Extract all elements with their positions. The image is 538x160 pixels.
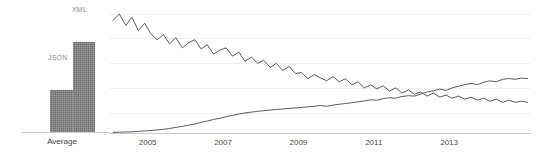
x-tick-label-2011: 2011	[365, 138, 382, 147]
x-tick-label-2013: 2013	[440, 138, 458, 147]
x-tick-label-2005: 2005	[139, 138, 157, 147]
bar-xml	[73, 42, 95, 132]
bar-chart-baseline	[22, 132, 110, 133]
series-line-xml	[113, 14, 528, 102]
trend-line-chart: 20052007200920112013	[110, 0, 538, 160]
bar-label-json: JSON	[48, 54, 67, 61]
average-bar-chart: JSON XML Average	[0, 0, 112, 160]
series-line-json	[113, 78, 528, 132]
bar-json	[50, 90, 73, 132]
line-chart-plot	[110, 0, 538, 160]
x-tick-label-2009: 2009	[289, 138, 307, 147]
bar-label-xml: XML	[72, 6, 87, 13]
x-tick-label-2007: 2007	[214, 138, 232, 147]
chart-figure: JSON XML Average 20052007200920112013	[0, 0, 538, 160]
bar-chart-category-label: Average	[0, 137, 124, 146]
